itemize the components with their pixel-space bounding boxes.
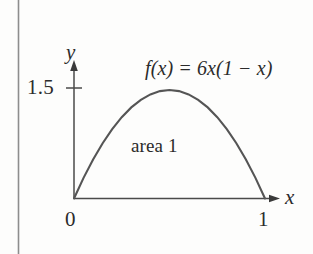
y-axis-label: y <box>66 42 75 63</box>
function-formula-label: f(x) = 6x(1 − x) <box>145 58 272 78</box>
y-tick-label: 1.5 <box>27 77 54 98</box>
area-annotation: area 1 <box>131 136 177 155</box>
x-axis-label: x <box>285 187 294 208</box>
origin-label: 0 <box>65 209 76 230</box>
figure-container: y x 1.5 0 1 area 1 f(x) = 6x(1 − x) <box>0 0 313 254</box>
x-axis-arrowhead <box>269 195 280 203</box>
x-tick-label: 1 <box>258 209 269 230</box>
